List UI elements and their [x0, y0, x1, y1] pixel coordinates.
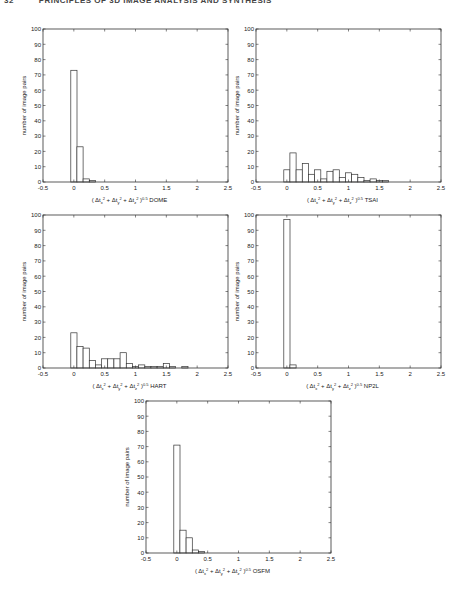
y-tick-label: 80 [247, 57, 254, 63]
y-tick-label: 50 [34, 103, 41, 109]
histogram-bar [174, 445, 180, 553]
y-tick-label: 20 [34, 335, 41, 341]
x-tick-label: 2 [195, 371, 199, 377]
histogram-bar [284, 220, 290, 368]
y-tick-label: 60 [34, 88, 41, 94]
histogram-bar [333, 170, 339, 182]
x-tick-label: 0 [285, 371, 289, 377]
histogram-bar [358, 177, 364, 182]
histogram-bar [352, 174, 358, 182]
histogram-bar [321, 179, 327, 182]
y-axis-ticks: 0102030405060708090100 [244, 212, 441, 371]
y-tick-label: 50 [34, 289, 41, 295]
x-tick-label: 1.5 [162, 185, 171, 191]
plot-frame [256, 29, 441, 182]
histogram-bar [327, 171, 333, 182]
histogram-bar [296, 170, 302, 182]
x-tick-label: 2.5 [327, 556, 336, 562]
y-axis-ticks: 0102030405060708090100 [134, 398, 331, 556]
histogram-bar [77, 347, 83, 368]
histogram-bar [290, 365, 296, 368]
y-tick-label: 100 [134, 398, 145, 404]
histogram-np2l: 0102030405060708090100-0.500.511.522.5nu… [234, 212, 446, 390]
y-tick-label: 30 [247, 319, 254, 325]
histogram-bar [89, 360, 95, 368]
y-tick-label: 10 [34, 350, 41, 356]
y-axis-label: number of image pairs [21, 262, 27, 322]
histogram-bar [302, 164, 308, 182]
y-tick-label: 90 [247, 42, 254, 48]
y-tick-label: 10 [247, 350, 254, 356]
histogram-bar [108, 359, 114, 368]
bars [71, 333, 188, 368]
histogram-bar [180, 530, 186, 553]
x-tick-label: 2 [298, 556, 302, 562]
x-tick-label: 1.5 [375, 371, 384, 377]
histogram-bar [114, 359, 120, 368]
y-tick-label: 20 [34, 149, 41, 155]
y-tick-label: 20 [247, 335, 254, 341]
x-axis-ticks: -0.500.511.522.5 [38, 29, 233, 191]
y-tick-label: 100 [31, 26, 42, 32]
y-axis-ticks: 0102030405060708090100 [244, 26, 441, 185]
histogram-bar [370, 179, 376, 182]
histogram-bar [126, 363, 132, 368]
y-tick-label: 60 [247, 88, 254, 94]
y-axis-label: number of image pairs [234, 262, 240, 322]
y-tick-label: 100 [244, 212, 255, 218]
histogram-bar [308, 174, 314, 182]
histogram-bar [77, 147, 83, 182]
y-tick-label: 30 [34, 319, 41, 325]
x-tick-label: -0.5 [38, 371, 49, 377]
x-tick-label: 1.5 [265, 556, 274, 562]
y-tick-label: 30 [137, 505, 144, 511]
y-tick-label: 40 [247, 304, 254, 310]
bars [284, 220, 296, 368]
y-tick-label: 40 [34, 118, 41, 124]
histogram-tsai: 0102030405060708090100-0.500.511.522.5nu… [234, 26, 446, 204]
x-tick-label: 2.5 [224, 371, 233, 377]
histogram-bar [192, 550, 198, 553]
histogram-bar [95, 365, 101, 368]
y-tick-label: 70 [247, 258, 254, 264]
x-tick-label: 0 [72, 185, 76, 191]
y-tick-label: 40 [247, 118, 254, 124]
y-tick-label: 80 [137, 429, 144, 435]
y-tick-label: 40 [34, 304, 41, 310]
y-tick-label: 80 [34, 243, 41, 249]
y-tick-label: 80 [34, 57, 41, 63]
x-tick-label: 0.5 [100, 371, 109, 377]
y-axis-ticks: 0102030405060708090100 [31, 26, 228, 185]
y-tick-label: 90 [137, 414, 144, 420]
x-tick-label: 0 [175, 556, 179, 562]
y-axis-label: number of image pairs [21, 76, 27, 136]
y-tick-label: 80 [247, 243, 254, 249]
y-tick-label: 70 [137, 444, 144, 450]
y-tick-label: 90 [34, 42, 41, 48]
y-tick-label: 30 [34, 133, 41, 139]
histogram-bar [290, 153, 296, 182]
histogram-bar [339, 177, 345, 182]
x-axis-ticks: -0.500.511.522.5 [38, 215, 233, 377]
y-tick-label: 40 [137, 490, 144, 496]
histogram-bar [83, 348, 89, 368]
y-tick-label: 100 [31, 212, 42, 218]
y-tick-label: 10 [137, 535, 144, 541]
x-tick-label: 0.5 [203, 556, 212, 562]
bars [71, 70, 96, 182]
y-tick-label: 10 [247, 164, 254, 170]
x-axis-ticks: -0.500.511.522.5 [251, 215, 446, 377]
y-tick-label: 50 [247, 103, 254, 109]
y-tick-label: 60 [247, 274, 254, 280]
x-axis-label: ( Δtx2 + Δty2 + Δtz2 )0.5 TSAI [307, 196, 378, 205]
y-axis-ticks: 0102030405060708090100 [31, 212, 228, 371]
y-tick-label: 90 [34, 228, 41, 234]
x-tick-label: 2 [195, 185, 199, 191]
histogram-hart: 0102030405060708090100-0.500.511.522.5nu… [21, 212, 233, 390]
histogram-bar [186, 538, 192, 553]
y-tick-label: 50 [247, 289, 254, 295]
x-axis-label: ( Δtx2 + Δty2 + Δtz2 )0.5 HART [93, 382, 167, 391]
x-tick-label: -0.5 [38, 185, 49, 191]
y-tick-label: 60 [137, 459, 144, 465]
x-tick-label: 0 [72, 371, 76, 377]
